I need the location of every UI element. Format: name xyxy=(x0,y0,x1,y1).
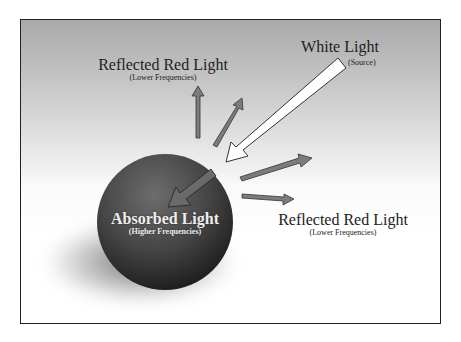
white-light-label: White Light xyxy=(300,38,380,55)
reflected-arrow-icon xyxy=(242,194,294,205)
reflected-right-label: Reflected Red Light (Lower Frequencies) xyxy=(268,211,418,237)
absorbed-title: Absorbed Light xyxy=(100,210,230,227)
reflected-right-subtitle: (Lower Frequencies) xyxy=(268,228,418,237)
diagram-graphics xyxy=(0,0,461,342)
reflected-right-title: Reflected Red Light xyxy=(268,211,418,228)
reflected-arrow-icon xyxy=(192,86,204,138)
reflected-top-title: Reflected Red Light xyxy=(88,56,238,73)
white-light-subtitle: (Source) xyxy=(348,58,376,67)
reflected-top-label: Reflected Red Light (Lower Frequencies) xyxy=(88,56,238,82)
reflected-arrow-icon xyxy=(213,98,243,147)
white-light-title: White Light xyxy=(300,38,380,55)
reflected-top-subtitle: (Lower Frequencies) xyxy=(88,73,238,82)
absorbed-subtitle: (Higher Frequencies) xyxy=(100,227,230,236)
white-light-arrow-icon xyxy=(226,58,346,162)
absorbed-label: Absorbed Light (Higher Frequencies) xyxy=(100,210,230,236)
reflected-arrow-icon xyxy=(240,154,312,181)
